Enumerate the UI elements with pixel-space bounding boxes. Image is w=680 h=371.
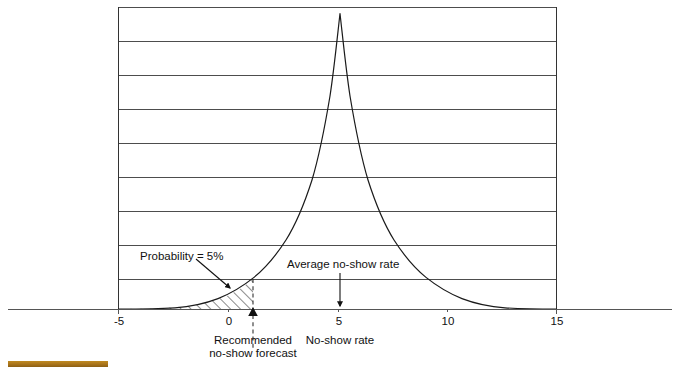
average-rate-annotation-label: Average no-show rate — [287, 258, 399, 271]
footer-rule-decoration — [8, 361, 108, 367]
probability-annotation-label: Probability = 5% — [140, 250, 223, 263]
recommended-forecast-caption: Recommended no-show forecast — [209, 334, 297, 360]
x-tick-label-minus5: -5 — [114, 315, 124, 328]
chart-figure: Probability = 5% Average no-show rate -5… — [0, 0, 680, 371]
recommended-forecast-caption-line1: Recommended — [209, 334, 297, 347]
x-tick-label-5: 5 — [336, 315, 342, 328]
recommended-forecast-caption-line2: no-show forecast — [209, 347, 297, 360]
x-tick-label-0: 0 — [226, 315, 232, 328]
x-axis-title: No-show rate — [306, 334, 374, 347]
x-tick-label-15: 15 — [551, 315, 564, 328]
x-tick-label-10: 10 — [442, 315, 455, 328]
